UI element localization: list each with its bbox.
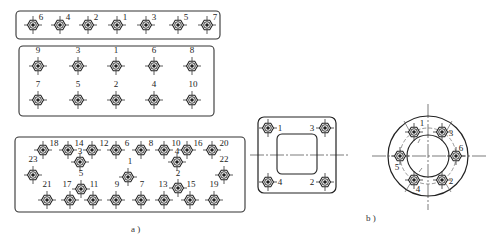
- bolt-sequence-label: 1: [114, 45, 119, 55]
- bolt-icon: [84, 191, 102, 209]
- bolt-sequence-label: 15: [187, 179, 197, 189]
- bolt-sequence-label: 3: [449, 128, 454, 138]
- bolt-sequence-label: 3: [310, 123, 315, 133]
- circular-flange: [372, 104, 486, 210]
- bolt-sequence-label: 1: [128, 156, 133, 166]
- bolt-icon: [83, 141, 101, 159]
- bolt-sequence-label: 2: [449, 176, 454, 186]
- bolt-sequence-label: 16: [194, 138, 204, 148]
- bolt-sequence-label: 10: [189, 79, 199, 89]
- bolt-tightening-diagram: 6421357 93168752410 18141268101620342312…: [0, 0, 494, 244]
- bolt-sequence-label: 1: [278, 123, 283, 133]
- bolt-icon: [169, 179, 187, 197]
- bolt-icon: [38, 191, 56, 209]
- bolt-sequence-label: 4: [152, 79, 157, 89]
- bolt-sequence-label: 8: [190, 45, 195, 55]
- bolt-icon: [72, 180, 90, 198]
- bolt-icon: [29, 57, 47, 75]
- bolt-icon: [145, 57, 163, 75]
- bolt-sequence-label: 6: [459, 143, 464, 153]
- bolt-sequence-label: 7: [213, 12, 218, 22]
- bolt-icon: [183, 57, 201, 75]
- bolt-icon: [145, 91, 163, 109]
- bolt-sequence-label: 3: [76, 45, 81, 55]
- bolt-sequence-label: 3: [78, 146, 83, 156]
- bolt-icon: [107, 141, 125, 159]
- bolt-sequence-label: 9: [115, 179, 120, 189]
- bolt-sequence-label: 7: [36, 79, 41, 89]
- bolt-sequence-label: 5: [395, 162, 400, 172]
- bolt-sequence-label: 4: [278, 177, 283, 187]
- bolt-icon: [259, 173, 277, 191]
- bolt-sequence-label: 2: [94, 12, 99, 22]
- bolt-icon: [107, 191, 125, 209]
- bolt-sequence-label: 6: [152, 45, 157, 55]
- bolt-sequence-label: 18: [50, 138, 60, 148]
- bolt-icon: [107, 57, 125, 75]
- bolt-sequence-label: 2: [176, 168, 181, 178]
- bolt-sequence-label: 20: [220, 138, 230, 148]
- bolt-icon: [132, 141, 150, 159]
- bolt-sequence-label: 4: [416, 184, 421, 194]
- bolt-sequence-label: 17: [63, 179, 73, 189]
- bolt-sequence-label: 6: [125, 138, 130, 148]
- bolt-sequence-label: 2: [114, 79, 119, 89]
- large-plate-bolts: 1814126810162034231225221171197131519: [24, 138, 233, 209]
- bolt-sequence-label: 9: [36, 45, 41, 55]
- bolt-sequence-label: 21: [43, 179, 52, 189]
- bolt-icon: [132, 191, 150, 209]
- bolt-icon: [29, 91, 47, 109]
- bolt-icon: [155, 141, 173, 159]
- bolt-icon: [107, 91, 125, 109]
- single-row-bolts: 6421357: [24, 12, 218, 34]
- bolt-sequence-label: 5: [184, 12, 189, 22]
- bolt-sequence-label: 7: [140, 179, 145, 189]
- bolt-icon: [259, 119, 277, 137]
- bolt-sequence-label: 5: [76, 79, 81, 89]
- bolt-icon: [69, 91, 87, 109]
- bolt-icon: [181, 191, 199, 209]
- bolt-sequence-label: 1: [123, 12, 128, 22]
- bolt-sequence-label: 8: [149, 138, 154, 148]
- bolt-sequence-label: 22: [220, 154, 229, 164]
- bolt-sequence-label: 11: [90, 179, 99, 189]
- bolt-sequence-label: 19: [210, 179, 220, 189]
- bolt-sequence-label: 4: [175, 146, 180, 156]
- bolt-sequence-label: 2: [310, 177, 315, 187]
- bolt-icon: [316, 173, 334, 191]
- bolt-icon: [203, 141, 221, 159]
- bolt-sequence-label: 3: [152, 12, 157, 22]
- bolt-icon: [405, 171, 423, 189]
- caption-b: b ): [366, 213, 376, 223]
- bolt-icon: [61, 191, 79, 209]
- bolt-sequence-label: 12: [100, 138, 109, 148]
- bolt-icon: [391, 147, 409, 165]
- caption-a: a ): [131, 224, 140, 234]
- bolt-sequence-label: 13: [159, 179, 169, 189]
- bolt-icon: [24, 166, 42, 184]
- bolt-icon: [205, 191, 223, 209]
- bolt-sequence-label: 1: [420, 118, 425, 128]
- bolt-icon: [155, 191, 173, 209]
- bolt-sequence-label: 5: [79, 168, 84, 178]
- bolt-icon: [69, 57, 87, 75]
- bolt-icon: [119, 168, 137, 186]
- bolt-sequence-label: 23: [29, 154, 39, 164]
- bolt-icon: [316, 119, 334, 137]
- bolt-sequence-label: 4: [66, 12, 71, 22]
- bolt-icon: [183, 91, 201, 109]
- double-row-bolts: 93168752410: [29, 45, 201, 109]
- bolt-sequence-label: 6: [39, 12, 44, 22]
